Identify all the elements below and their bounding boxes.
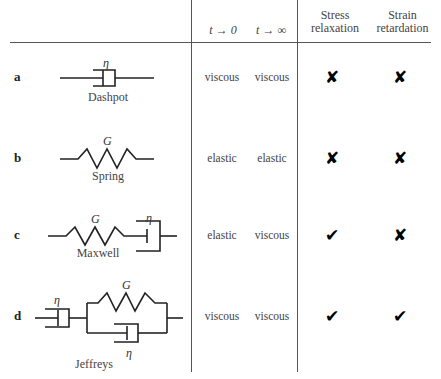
symbol-G-c: G xyxy=(91,212,100,227)
cell-b-tinf: elastic xyxy=(242,152,302,164)
cross-icon: ✘ xyxy=(317,148,347,168)
symbol-eta-d1: η xyxy=(54,293,60,308)
caption-dashpot: Dashpot xyxy=(68,90,148,105)
cross-icon: ✘ xyxy=(385,67,415,87)
cross-icon: ✘ xyxy=(317,67,347,87)
symbol-eta-c: η xyxy=(146,211,152,226)
caption-jeffreys: Jeffreys xyxy=(54,357,134,372)
cross-icon: ✘ xyxy=(385,225,415,245)
dashpot-icon xyxy=(60,70,154,86)
cross-icon: ✘ xyxy=(385,148,415,168)
caption-spring: Spring xyxy=(68,169,148,184)
symbol-eta-a: η xyxy=(103,56,109,71)
spring-icon xyxy=(60,149,154,168)
caption-maxwell: Maxwell xyxy=(58,246,138,261)
check-icon: ✔ xyxy=(385,306,415,326)
symbol-G-d: G xyxy=(122,278,131,293)
cell-c-tinf: viscous xyxy=(242,229,302,241)
symbol-G-b: G xyxy=(103,134,112,149)
cell-d-tinf: viscous xyxy=(242,310,302,322)
mechanical-model-diagrams xyxy=(0,0,441,379)
cell-a-tinf: viscous xyxy=(242,71,302,83)
check-icon: ✔ xyxy=(317,306,347,326)
check-icon: ✔ xyxy=(317,225,347,245)
